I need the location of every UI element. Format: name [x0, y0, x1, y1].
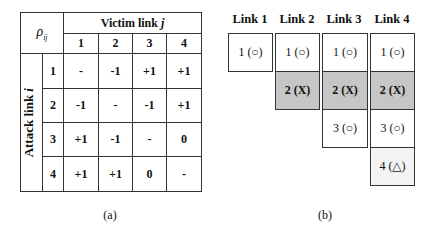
link-4-header: Link 4	[369, 12, 415, 27]
col-header: 4	[167, 34, 202, 54]
table-cell: -	[133, 123, 167, 157]
table-cell: +1	[64, 123, 99, 157]
link-3-header: Link 3	[321, 12, 367, 27]
table-cell: -1	[133, 89, 167, 123]
link-4-slot-4: 4 (△)	[370, 147, 415, 186]
col-header: 2	[99, 34, 133, 54]
table-row: 3 +1 -1 - 0	[21, 123, 202, 157]
correlation-table: ρij Victim link j 1 2 3 4 Attack link i …	[20, 12, 202, 192]
row-header: 1	[43, 54, 64, 89]
caption-a: (a)	[95, 208, 125, 223]
table-cell: -	[167, 157, 202, 192]
table-cell: 0	[133, 157, 167, 192]
table-cell: -	[64, 54, 99, 89]
row-header: 2	[43, 89, 64, 123]
col-header: 3	[133, 34, 167, 54]
table-cell: 0	[167, 123, 202, 157]
attack-link-header: Attack link i	[21, 54, 43, 192]
link-2-slot-2: 2 (X)	[275, 71, 320, 110]
row-header: 4	[43, 157, 64, 192]
table-cell: +1	[64, 157, 99, 192]
table-row: 4 +1 +1 0 -	[21, 157, 202, 192]
link-4-slot-2: 2 (X)	[370, 71, 415, 110]
link-3-slot-1: 1 (○)	[322, 33, 368, 72]
victim-link-header: Victim link j	[64, 13, 202, 34]
link-3-slot-3: 3 (○)	[322, 109, 368, 148]
table-cell: +1	[99, 157, 133, 192]
link-2-header: Link 2	[274, 12, 320, 27]
table-cell: -	[99, 89, 133, 123]
table-cell: +1	[167, 54, 202, 89]
link-4-slot-1: 1 (○)	[370, 33, 415, 72]
link-2-slot-1: 1 (○)	[275, 33, 320, 72]
row-header: 3	[43, 123, 64, 157]
table-cell: -1	[99, 123, 133, 157]
table-cell: +1	[167, 89, 202, 123]
table-cell: -1	[99, 54, 133, 89]
link-1-header: Link 1	[227, 12, 273, 27]
table-row: 2 -1 - -1 +1	[21, 89, 202, 123]
rho-ij-corner: ρij	[21, 13, 64, 54]
link-4-slot-3: 3 (○)	[370, 109, 415, 148]
col-header: 1	[64, 34, 99, 54]
table-cell: +1	[133, 54, 167, 89]
table-cell: -1	[64, 89, 99, 123]
link-3-slot-2: 2 (X)	[322, 71, 368, 110]
link-1-slot-1: 1 (○)	[228, 33, 273, 72]
caption-b: (b)	[310, 208, 340, 223]
table-row: Attack link i 1 - -1 +1 +1	[21, 54, 202, 89]
